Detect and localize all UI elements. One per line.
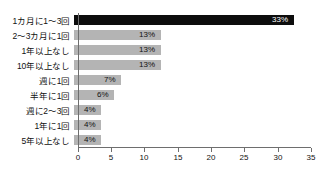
x-axis-tick [278,148,279,152]
category-label: 1年に1回 [0,121,74,131]
bar-track: 13% [74,58,323,73]
bar-track: 33% [74,13,323,28]
bar-track: 4% [74,133,323,148]
x-axis-tick [178,148,179,152]
category-label: 10年以上なし [0,61,74,71]
y-axis-line [78,13,79,148]
x-axis-tick [78,148,79,152]
bar-track: 13% [74,28,323,43]
category-label: 5年以上なし [0,136,74,146]
bar-value-label: 13% [139,45,155,55]
bar-value-label: 6% [97,90,109,100]
x-axis-tick [311,148,312,152]
bar-row: 1年以上なし 13% [0,43,327,58]
x-axis-tick-label: 15 [174,153,183,163]
x-axis-tick-label: 5 [109,153,113,163]
bar-row: 2〜3カ月に1回 13% [0,28,327,43]
x-axis-tick-label: 10 [140,153,149,163]
category-label: 週に1回 [0,76,74,86]
x-axis-tick-label: 25 [240,153,249,163]
bar-value-label: 4% [84,135,96,145]
bar-row: 5年以上なし 4% [0,133,327,148]
bar-value-label: 33% [272,15,288,25]
x-axis-tick [211,148,212,152]
bar-value-label: 13% [139,60,155,70]
bar-row: 半年に1回 6% [0,88,327,103]
chart-plot-area: 1カ月に1〜3回 33% 2〜3カ月に1回 13% 1年以上なし 13% 10年… [0,13,327,148]
bar-row: 1年に1回 4% [0,118,327,133]
bar-row: 週に2〜3回 4% [0,103,327,118]
x-axis-tick-label: 20 [207,153,216,163]
bar-value-label: 4% [84,120,96,130]
category-label: 2〜3カ月に1回 [0,31,74,41]
bar-track: 13% [74,43,323,58]
bar-track: 7% [74,73,323,88]
bar-track: 4% [74,103,323,118]
category-label: 1カ月に1〜3回 [0,16,74,26]
x-axis-line [78,147,311,148]
bar [74,15,294,25]
x-axis-tick-label: 35 [307,153,316,163]
category-label: 1年以上なし [0,46,74,56]
x-axis-tick [111,148,112,152]
bar-row: 週に1回 7% [0,73,327,88]
x-axis-tick [144,148,145,152]
bar-value-label: 4% [84,105,96,115]
bar-track: 4% [74,118,323,133]
category-label: 半年に1回 [0,91,74,101]
bar-track: 6% [74,88,323,103]
x-axis-tick-label: 0 [76,153,80,163]
category-label: 週に2〜3回 [0,106,74,116]
bar-value-label: 13% [139,30,155,40]
bar-chart: 1カ月に1〜3回 33% 2〜3カ月に1回 13% 1年以上なし 13% 10年… [0,0,327,169]
bar-row: 1カ月に1〜3回 33% [0,13,327,28]
x-axis-tick [244,148,245,152]
x-axis-tick-label: 30 [274,153,283,163]
bar-row: 10年以上なし 13% [0,58,327,73]
bar-value-label: 7% [104,75,116,85]
